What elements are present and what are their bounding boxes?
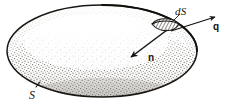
surface-highlight	[36, 15, 156, 53]
label-n: n	[148, 53, 154, 63]
label-ds: dS	[175, 6, 186, 17]
figure-canvas: dS q n S	[0, 0, 225, 110]
label-s: S	[29, 89, 35, 101]
label-q: q	[213, 22, 219, 32]
